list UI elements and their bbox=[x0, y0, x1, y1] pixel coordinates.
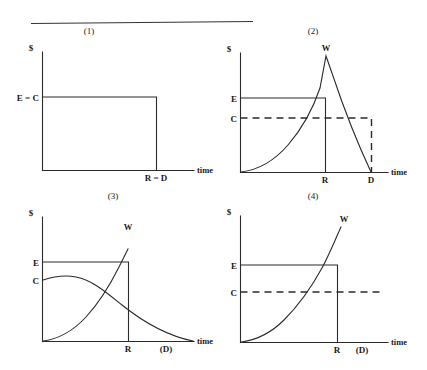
panel-2-number: (2) bbox=[308, 26, 319, 36]
panel-1-number: (1) bbox=[84, 26, 95, 36]
panel-4-tick-label-d: (D) bbox=[356, 345, 369, 355]
panel-4-tick-label-r: R bbox=[334, 345, 341, 355]
panel-3-level-label-c: C bbox=[33, 276, 40, 286]
panel-1-level-label-ec: E = C bbox=[17, 93, 39, 103]
panel-4-level-label-e: E bbox=[231, 261, 237, 271]
panel-3-number: (3) bbox=[108, 191, 119, 201]
panel-2-x-axis-label: time bbox=[391, 167, 407, 177]
panel-4-x-axis-label: time bbox=[391, 337, 407, 347]
figure-container: (1) $ time E = C R = D (2) $ time bbox=[0, 0, 427, 370]
panel-2-level-label-c: C bbox=[231, 114, 238, 124]
panel-4: (4) $ time E C R (D) W bbox=[227, 191, 408, 355]
panel-2-c-dashed-box bbox=[241, 118, 372, 172]
panel-4-y-axis-label: $ bbox=[227, 207, 232, 217]
panel-2-level-label-e: E bbox=[231, 94, 237, 104]
panel-2-curve-label-w: W bbox=[322, 43, 331, 53]
panel-2-w-curve bbox=[241, 56, 371, 172]
four-panel-figure: (1) $ time E = C R = D (2) $ time bbox=[0, 0, 427, 370]
panel-3-level-label-e: E bbox=[33, 258, 39, 268]
panel-3-y-axis-label: $ bbox=[29, 208, 34, 218]
panel-3-w-curve bbox=[44, 249, 129, 341]
top-rule-divider bbox=[31, 22, 253, 24]
panel-2-tick-label-d: D bbox=[368, 175, 375, 185]
panel-3-x-axis-label: time bbox=[197, 336, 213, 346]
panel-2-tick-label-r: R bbox=[322, 175, 329, 185]
panel-3-tick-label-r: R bbox=[125, 344, 132, 354]
panel-1-x-axis-label: time bbox=[197, 165, 213, 175]
panel-4-curve-label-w: W bbox=[340, 214, 349, 224]
panel-4-e-box bbox=[241, 265, 338, 343]
panel-2: (2) $ time E C R D W bbox=[227, 26, 408, 185]
panel-1: (1) $ time E = C R = D bbox=[17, 26, 213, 183]
panel-1-tick-label-rd: R = D bbox=[145, 173, 168, 183]
panel-3: (3) $ time E C R (D) W bbox=[29, 191, 214, 354]
panel-2-e-box bbox=[241, 98, 326, 173]
panel-3-tick-label-d: (D) bbox=[160, 344, 173, 354]
panel-3-curve-label-w: W bbox=[124, 222, 133, 232]
panel-4-w-curve bbox=[242, 227, 342, 342]
panel-2-y-axis-label: $ bbox=[227, 44, 232, 54]
panel-1-ec-step-curve bbox=[43, 97, 157, 171]
panel-1-y-axis-label: $ bbox=[29, 43, 34, 53]
panel-3-c-curve bbox=[43, 276, 193, 341]
panel-4-number: (4) bbox=[308, 191, 319, 201]
panel-4-level-label-c: C bbox=[231, 288, 238, 298]
